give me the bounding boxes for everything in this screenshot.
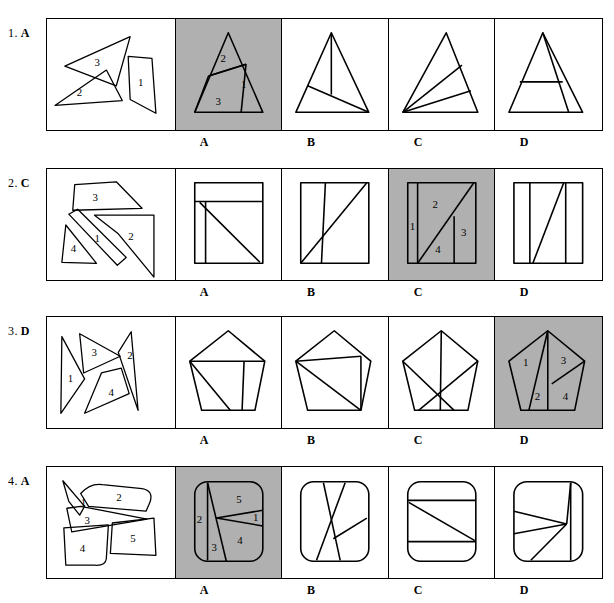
piece-number-2: 2: [116, 491, 121, 503]
row-1-label-A: A: [189, 135, 219, 150]
piece-number-5: 5: [130, 532, 135, 544]
row-3-label: 3.D: [8, 324, 30, 339]
option-cut-line-3: [194, 76, 208, 112]
row-3-option-A[interactable]: [176, 317, 283, 428]
row-1-option-C[interactable]: [389, 19, 496, 130]
row-1-pieces-panel: 3 1 2: [47, 19, 176, 130]
row-3-option-B[interactable]: [282, 317, 389, 428]
row-4-label-A: A: [189, 583, 219, 598]
option-piece-number-4: 4: [563, 391, 569, 403]
option-cut-line-3: [409, 502, 475, 540]
row-3-label-A: A: [189, 433, 219, 448]
row-1-option-A[interactable]: 2 1 3: [176, 19, 283, 130]
piece-shape-4: [85, 368, 130, 413]
option-cut-line-2: [417, 183, 473, 264]
row-4-answer: A: [21, 474, 30, 488]
option-cut-line-3: [334, 518, 368, 539]
option-outline-pentagon: [509, 331, 585, 411]
option-cut-line-2: [301, 183, 367, 264]
row-4-option-A[interactable]: 5 2 1 3 4: [176, 467, 283, 578]
option-cut-line-3: [552, 361, 585, 384]
piece-number-1: 1: [68, 372, 73, 384]
row-2-option-B[interactable]: [282, 169, 389, 280]
option-outline-pentagon: [190, 331, 265, 411]
row-3-label-B: B: [296, 433, 326, 448]
option-piece-number-2: 2: [432, 198, 437, 210]
option-piece-number-2: 2: [220, 52, 225, 64]
row-2-strip: 3 2 1 4: [46, 168, 603, 281]
option-piece-number-4: 4: [435, 243, 441, 255]
option-piece-number-3: 3: [215, 95, 220, 107]
option-piece-number-3: 3: [561, 354, 567, 366]
row-1-label: 1.A: [8, 26, 30, 41]
option-cut-line-3: [533, 183, 564, 264]
option-cut-line-2: [308, 86, 369, 113]
option-cut-line-2: [514, 511, 567, 524]
row-2-label-C: C: [403, 285, 433, 300]
row-4-label-C: C: [403, 583, 433, 598]
piece-shape-3: [80, 334, 121, 373]
option-cut-line-1: [403, 65, 462, 112]
option-piece-number-1: 1: [241, 78, 246, 90]
option-cut-line-2: [207, 483, 226, 562]
row-4-label: 4.A: [8, 474, 30, 489]
row-4-option-D[interactable]: [495, 467, 602, 578]
piece-number-3: 3: [92, 346, 97, 358]
option-piece-number-3: 3: [461, 226, 466, 238]
option-piece-number-1: 1: [410, 220, 415, 232]
option-cut-line-2: [317, 483, 346, 561]
option-outline-rounded-square: [514, 482, 583, 562]
row-1-option-D[interactable]: [495, 19, 602, 130]
row-2-option-A[interactable]: [176, 169, 283, 280]
option-outline-rounded-square: [301, 482, 369, 562]
row-1-number: 1.: [8, 26, 18, 40]
row-3-label-D: D: [509, 433, 539, 448]
row-4-label-B: B: [296, 583, 326, 598]
row-2-label-A: A: [189, 285, 219, 300]
row-3-option-D[interactable]: 1 3 2 4: [495, 317, 602, 428]
piece-number-2: 2: [127, 349, 132, 361]
option-piece-number-3: 3: [211, 541, 216, 553]
piece-number-1: 1: [138, 76, 143, 88]
row-2-number: 2.: [8, 176, 18, 190]
piece-number-2: 2: [77, 86, 82, 98]
option-cut-line-3: [199, 202, 259, 262]
piece-number-4: 4: [71, 243, 77, 255]
row-4-option-B[interactable]: [282, 467, 389, 578]
row-3-answer: D: [21, 324, 30, 338]
row-4-option-C[interactable]: [389, 467, 496, 578]
option-cut-line-1: [296, 356, 361, 361]
option-cut-line-1: [322, 183, 326, 264]
piece-shape-2: [118, 332, 138, 411]
row-2-option-D[interactable]: [495, 169, 602, 280]
row-4-number: 4.: [8, 474, 18, 488]
option-piece-number-4: 4: [237, 534, 243, 546]
piece-number-4: 4: [80, 542, 86, 554]
row-1-strip: 3 1 2 2 1 3: [46, 18, 603, 131]
row-3-option-C[interactable]: [389, 317, 496, 428]
option-cut-line-3: [242, 361, 244, 410]
row-2-pieces-panel: 3 2 1 4: [47, 169, 176, 280]
option-cut-line-1: [543, 33, 569, 113]
row-2-label-B: B: [296, 285, 326, 300]
row-1-label-C: C: [403, 135, 433, 150]
piece-shape-2: [95, 215, 154, 277]
option-piece-number-5: 5: [236, 493, 241, 505]
row-1-option-labels: A B C D: [46, 131, 603, 153]
row-2-option-C[interactable]: 1 2 3 4: [389, 169, 496, 280]
row-3-strip: 1 3 2 4: [46, 316, 603, 429]
option-cut-line-1: [324, 483, 341, 561]
piece-number-3: 3: [85, 514, 90, 526]
piece-shape-4: [62, 225, 97, 263]
piece-number-1: 1: [95, 232, 100, 244]
row-4-strip: 1 2 3 4 5 5 2: [46, 466, 603, 579]
option-piece-number-2: 2: [196, 513, 201, 525]
row-3-pieces-panel: 1 3 2 4: [47, 317, 176, 428]
row-1-label-B: B: [296, 135, 326, 150]
row-3-label-C: C: [403, 433, 433, 448]
option-outline-triangle: [509, 33, 583, 113]
option-piece-number-2: 2: [535, 391, 540, 403]
row-1-answer: A: [21, 26, 30, 40]
row-1-option-B[interactable]: [282, 19, 389, 130]
row-4-pieces-panel: 1 2 3 4 5: [47, 467, 176, 578]
